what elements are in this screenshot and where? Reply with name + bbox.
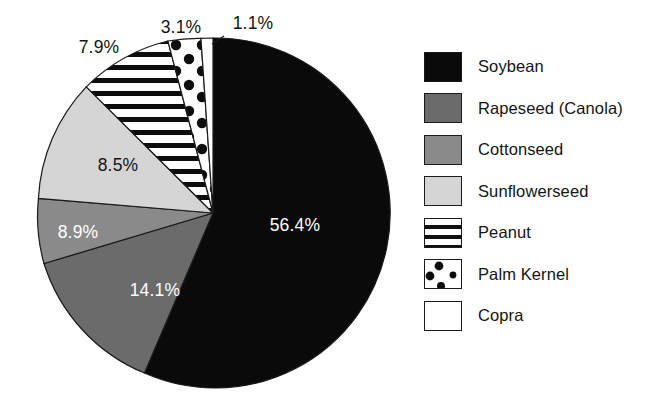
legend-label-palm-kernel: Palm Kernel <box>478 265 569 284</box>
pie-value-label-sunflowerseed: 8.5% <box>98 155 139 175</box>
pie-svg: 56.4% 14.1% 8.9% 8.5% 7.9% 3.1% 1.1% <box>0 0 410 406</box>
legend-label-soybean: Soybean <box>478 57 544 76</box>
legend-item-sunflowerseed[interactable]: Sunflowerseed <box>424 171 649 213</box>
legend-label-cottonseed: Cottonseed <box>478 140 563 159</box>
legend-label-copra: Copra <box>478 306 523 325</box>
pie-chart-figure: 56.4% 14.1% 8.9% 8.5% 7.9% 3.1% 1.1% Soy… <box>0 0 655 406</box>
legend-swatch-soybean-icon <box>424 52 462 82</box>
legend-swatch-rapeseed-icon <box>424 93 462 123</box>
legend-item-cottonseed[interactable]: Cottonseed <box>424 129 649 171</box>
legend-label-rapeseed: Rapeseed (Canola) <box>478 99 623 118</box>
legend-item-peanut[interactable]: Peanut <box>424 212 649 254</box>
pie-plot-area: 56.4% 14.1% 8.9% 8.5% 7.9% 3.1% 1.1% <box>0 0 410 406</box>
legend-item-soybean[interactable]: Soybean <box>424 46 649 88</box>
legend-item-palm-kernel[interactable]: Palm Kernel <box>424 254 649 296</box>
pie-value-label-copra: 1.1% <box>233 13 274 33</box>
pie-value-label-rapeseed: 14.1% <box>130 280 181 300</box>
pie-value-label-cottonseed: 8.9% <box>58 222 99 242</box>
pie-value-label-soybean: 56.4% <box>270 215 321 235</box>
legend-swatch-sunflowerseed-icon <box>424 176 462 206</box>
legend-item-copra[interactable]: Copra <box>424 295 649 337</box>
legend-label-sunflowerseed: Sunflowerseed <box>478 182 588 201</box>
legend: Soybean Rapeseed (Canola) Cottonseed Sun… <box>424 46 649 337</box>
pie-value-label-peanut: 7.9% <box>79 37 120 57</box>
legend-swatch-palm-kernel-dots-icon <box>424 259 462 289</box>
legend-item-rapeseed[interactable]: Rapeseed (Canola) <box>424 88 649 130</box>
legend-swatch-copra-icon <box>424 301 462 331</box>
pie-value-label-palm-kernel: 3.1% <box>161 17 202 37</box>
legend-swatch-cottonseed-icon <box>424 135 462 165</box>
legend-swatch-peanut-stripes-icon <box>424 218 462 248</box>
legend-label-peanut: Peanut <box>478 223 531 242</box>
